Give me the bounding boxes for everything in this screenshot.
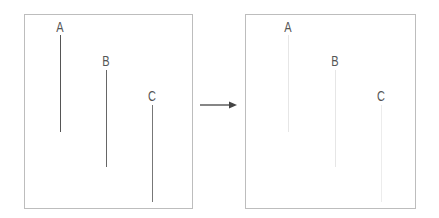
line-label-a: A — [56, 21, 63, 35]
line-a — [60, 35, 61, 132]
line-label-b: B — [102, 55, 109, 69]
line-b — [106, 70, 107, 167]
line-a — [288, 35, 289, 132]
line-c — [381, 105, 382, 202]
line-label-b: B — [331, 55, 338, 69]
line-b — [335, 70, 336, 167]
arrow-right-icon — [200, 100, 238, 110]
right-panel — [245, 14, 416, 209]
line-c — [152, 105, 153, 202]
line-label-a: A — [284, 21, 291, 35]
line-label-c: C — [148, 90, 156, 104]
line-label-c: C — [377, 90, 385, 104]
left-panel — [24, 14, 193, 209]
